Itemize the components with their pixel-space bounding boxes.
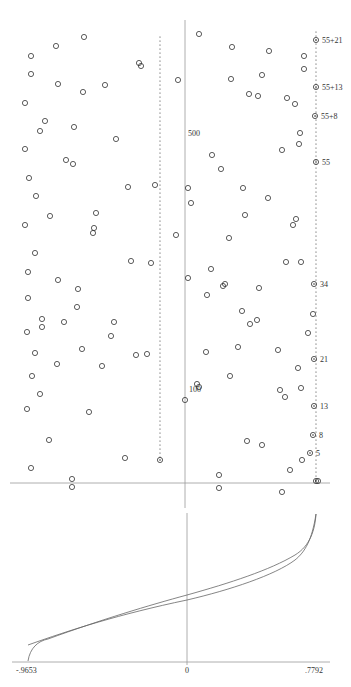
tick-label-500: 500 <box>188 129 200 138</box>
data-point <box>28 465 33 470</box>
data-point <box>203 349 208 354</box>
data-point <box>108 333 113 338</box>
data-point <box>29 373 34 378</box>
data-point <box>22 222 27 227</box>
data-point <box>255 93 260 98</box>
data-point <box>90 230 95 235</box>
data-point <box>287 467 292 472</box>
data-point <box>229 44 234 49</box>
data-point <box>305 330 310 335</box>
data-point <box>69 476 74 481</box>
data-point <box>152 182 157 187</box>
data-point <box>216 472 221 477</box>
data-point <box>293 216 298 221</box>
data-point <box>70 161 75 166</box>
data-point <box>265 195 270 200</box>
data-point <box>301 66 306 71</box>
data-point <box>81 34 86 39</box>
data-point <box>86 409 91 414</box>
data-point <box>235 344 240 349</box>
data-point <box>299 457 304 462</box>
data-point <box>185 185 190 190</box>
data-point <box>55 81 60 86</box>
data-point <box>239 308 244 313</box>
data-point <box>216 485 221 490</box>
data-point <box>298 385 303 390</box>
data-point <box>208 266 213 271</box>
data-point <box>298 259 303 264</box>
curve-b <box>28 514 316 645</box>
data-point <box>24 329 29 334</box>
data-point <box>226 235 231 240</box>
data-point <box>227 373 232 378</box>
data-point <box>69 484 74 489</box>
data-point <box>39 316 44 321</box>
data-point <box>32 350 37 355</box>
data-point <box>99 363 104 368</box>
data-point <box>295 365 300 370</box>
data-point <box>259 442 264 447</box>
data-point <box>22 100 27 105</box>
data-point <box>47 213 52 218</box>
fib-label: 5 <box>316 449 320 458</box>
data-point <box>25 269 30 274</box>
data-point <box>144 351 149 356</box>
data-point <box>42 118 47 123</box>
x-tick-zero: 0 <box>185 666 189 675</box>
data-point <box>26 175 31 180</box>
tick-label-100: 100 <box>189 385 201 394</box>
data-point <box>113 136 118 141</box>
data-point <box>28 71 33 76</box>
fib-label: 21 <box>320 355 328 364</box>
data-point <box>275 347 280 352</box>
data-point <box>279 489 284 494</box>
data-point <box>218 166 223 171</box>
data-point <box>310 311 315 316</box>
dotted-columns <box>157 31 318 483</box>
data-point <box>91 225 96 230</box>
data-point <box>259 72 264 77</box>
fib-label: 13 <box>320 402 328 411</box>
data-point <box>292 101 297 106</box>
data-point <box>240 185 245 190</box>
data-point <box>71 124 76 129</box>
data-point <box>125 184 130 189</box>
data-point <box>296 141 301 146</box>
curve-panel: -.9653 0 .7792 <box>12 513 330 675</box>
data-point <box>290 222 295 227</box>
data-point <box>46 437 51 442</box>
data-point <box>244 438 249 443</box>
data-point <box>63 157 68 162</box>
data-point <box>37 391 42 396</box>
figure: 500 100 55+2155+1355+85534211385 -.9653 … <box>0 0 351 687</box>
scatter-points <box>22 31 320 494</box>
fib-label: 34 <box>320 280 328 289</box>
data-point <box>266 48 271 53</box>
fib-label: 55+8 <box>321 112 338 121</box>
data-point <box>22 146 27 151</box>
data-point <box>24 406 29 411</box>
data-point <box>75 286 80 291</box>
data-point <box>25 295 30 300</box>
data-point <box>301 53 306 58</box>
data-point <box>242 212 247 217</box>
fib-label: 8 <box>319 431 323 440</box>
x-tick-max: .7792 <box>305 666 323 675</box>
data-point <box>283 259 288 264</box>
data-point <box>54 361 59 366</box>
data-point <box>185 275 190 280</box>
fibonacci-labels: 55+2155+1355+85534211385 <box>307 36 342 458</box>
data-point <box>282 394 287 399</box>
data-point <box>297 130 302 135</box>
data-point <box>39 324 44 329</box>
fib-label: 55+21 <box>322 36 343 45</box>
data-point <box>61 319 66 324</box>
data-point <box>128 258 133 263</box>
data-point <box>254 317 259 322</box>
data-point <box>33 193 38 198</box>
data-point <box>256 285 261 290</box>
data-point <box>204 292 209 297</box>
data-point <box>32 250 37 255</box>
data-point <box>28 53 33 58</box>
curve-a <box>28 514 316 661</box>
